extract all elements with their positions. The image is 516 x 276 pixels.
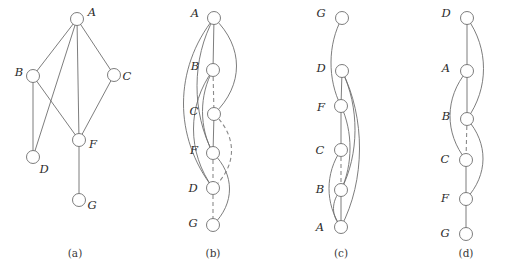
node-a-G[interactable] — [73, 194, 86, 207]
node-label-c-A: A — [316, 222, 324, 234]
edge-b-A-F — [197, 18, 214, 153]
edge-a-A-D — [33, 19, 77, 157]
panel-c-nodes — [335, 12, 349, 234]
node-c-C[interactable] — [335, 144, 348, 157]
edge-a-C-F — [79, 75, 114, 140]
node-a-F[interactable] — [73, 134, 86, 147]
node-label-b-D: D — [188, 183, 197, 195]
node-c-B[interactable] — [335, 184, 348, 197]
node-label-b-G: G — [188, 218, 197, 230]
node-a-B[interactable] — [27, 70, 40, 83]
node-label-a-C: C — [123, 71, 132, 83]
edge-b-A-B — [213, 18, 214, 70]
node-label-c-F: F — [317, 102, 325, 114]
panel-a-nodes — [27, 13, 121, 207]
edge-a-A-B — [33, 19, 77, 76]
node-d-D[interactable] — [461, 12, 474, 25]
node-b-D[interactable] — [207, 182, 220, 195]
node-label-a-D: D — [39, 164, 48, 176]
node-c-A[interactable] — [335, 221, 348, 234]
panel-caption-d: (d) — [459, 247, 474, 259]
panel-caption-b: (b) — [206, 247, 221, 259]
node-label-c-D: D — [316, 63, 325, 75]
node-label-b-A: A — [191, 8, 199, 20]
node-label-c-B: B — [316, 184, 324, 196]
node-label-c-C: C — [316, 145, 325, 157]
panel-caption-a: (a) — [68, 247, 82, 259]
node-label-d-G: G — [440, 228, 449, 240]
node-label-d-A: A — [442, 63, 450, 75]
node-label-d-F: F — [441, 193, 449, 205]
node-c-G[interactable] — [336, 12, 349, 25]
panel-c — [329, 12, 360, 234]
panel-d — [450, 12, 484, 241]
node-c-F[interactable] — [335, 100, 348, 113]
figure-canvas — [0, 0, 516, 276]
edge-b-A-D — [183, 18, 214, 188]
node-d-B[interactable] — [461, 113, 474, 126]
node-b-B[interactable] — [207, 64, 220, 77]
edge-a-A-C — [77, 19, 114, 75]
node-label-d-D: D — [441, 8, 450, 20]
node-a-A[interactable] — [71, 13, 84, 26]
edge-c-G-F — [331, 18, 342, 106]
node-label-a-A: A — [88, 7, 96, 19]
panel-b — [183, 12, 236, 232]
node-label-d-B: B — [442, 111, 450, 123]
node-label-a-F: F — [89, 139, 97, 151]
node-label-b-C: C — [190, 106, 199, 118]
node-d-A[interactable] — [461, 65, 474, 78]
node-label-a-G: G — [87, 200, 96, 212]
panel-caption-c: (c) — [334, 247, 348, 259]
node-label-c-G: G — [316, 8, 325, 20]
node-d-F[interactable] — [460, 193, 473, 206]
node-label-b-B: B — [191, 61, 199, 73]
node-d-C[interactable] — [460, 154, 473, 167]
node-d-G[interactable] — [460, 228, 473, 241]
node-label-b-F: F — [190, 145, 198, 157]
edge-a-A-F — [77, 19, 79, 140]
node-b-A[interactable] — [208, 12, 221, 25]
node-a-C[interactable] — [108, 69, 121, 82]
figure-container: ABCFDG(a)ABCFDG(b)GDFCBA(c)DABCFG(d) — [0, 0, 516, 276]
node-label-a-B: B — [15, 67, 23, 79]
node-b-F[interactable] — [207, 147, 220, 160]
panel-a — [27, 13, 121, 207]
edge-c-D-B — [341, 71, 355, 190]
node-b-G[interactable] — [207, 219, 220, 232]
node-label-d-C: C — [441, 154, 450, 166]
node-a-D[interactable] — [27, 151, 40, 164]
node-c-D[interactable] — [336, 65, 349, 78]
node-b-C[interactable] — [208, 108, 221, 121]
